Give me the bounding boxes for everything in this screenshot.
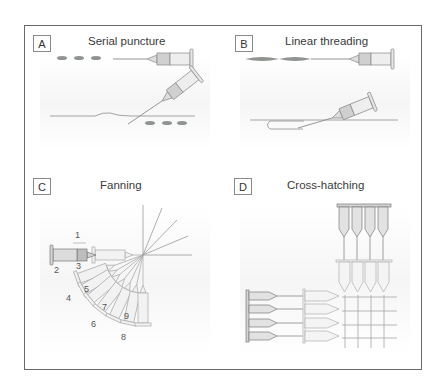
panel-title-serial-puncture: Serial puncture <box>88 35 165 47</box>
fanning-step-6: 6 <box>91 319 96 329</box>
panel-label-a: A <box>33 35 51 52</box>
fanning-step-8: 8 <box>121 332 126 342</box>
panel-title-linear-threading: Linear threading <box>285 35 368 47</box>
panel-c-art: 1 2 3 4 5 6 7 8 9 <box>40 205 210 355</box>
fanning-step-1: 1 <box>75 230 80 240</box>
panel-title-cross-hatching: Cross-hatching <box>287 179 364 191</box>
fanning-step-3: 3 <box>76 261 81 271</box>
fanning-step-5: 5 <box>84 284 89 294</box>
panel-label-d: D <box>234 178 252 195</box>
panel-a-art <box>40 49 210 150</box>
panel-label-b: B <box>235 35 253 52</box>
panel-d-art <box>240 204 410 355</box>
fanning-step-7: 7 <box>102 302 107 312</box>
panel-label-c: C <box>33 178 51 195</box>
panel-b-art <box>240 49 410 150</box>
figure-illustrations: 1 2 3 4 5 6 7 8 9 <box>0 0 445 385</box>
fanning-step-9: 9 <box>124 311 129 321</box>
fanning-step-4: 4 <box>66 293 71 303</box>
panel-title-fanning: Fanning <box>100 179 142 191</box>
fanning-step-2: 2 <box>54 265 59 275</box>
